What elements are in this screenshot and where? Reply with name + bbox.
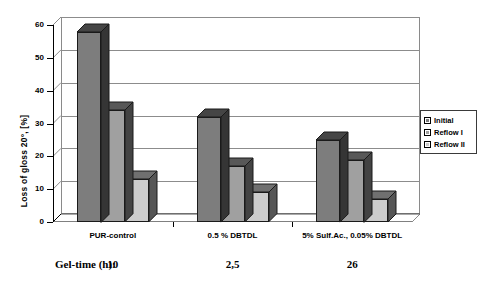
gel-time-value: 26 — [312, 258, 392, 270]
bar — [316, 140, 340, 222]
bars-layer — [53, 17, 420, 222]
gel-time-value: 2,5 — [193, 258, 273, 270]
bar-3d-faces — [197, 109, 229, 222]
legend-label: Reflow II — [434, 140, 465, 149]
y-axis-title: Loss of gloss 20°, [%] — [19, 101, 29, 221]
chart-legend: InitialReflow IReflow II — [420, 110, 477, 154]
y-axis-tick — [47, 58, 53, 59]
gel-time-value: 10 — [73, 258, 153, 270]
legend-swatch-icon — [424, 141, 431, 148]
legend-item[interactable]: Initial — [424, 114, 474, 126]
y-axis-tick — [47, 91, 53, 92]
y-axis-tick — [47, 156, 53, 157]
y-axis-tick — [47, 189, 53, 190]
legend-swatch-icon — [424, 117, 431, 124]
bar — [77, 32, 101, 222]
bar — [197, 117, 221, 222]
legend-label: Reflow I — [434, 128, 463, 137]
y-axis-title-wrap: Loss of gloss 20°, [%] — [8, 60, 24, 200]
y-axis-tick — [47, 124, 53, 125]
category-tick — [292, 222, 293, 227]
bar-3d-faces — [316, 132, 348, 222]
legend-item[interactable]: Reflow I — [424, 126, 474, 138]
y-axis-line — [53, 25, 54, 222]
chart-screenshot: 0102030405060 Loss of gloss 20°, [%] PUR… — [0, 0, 479, 284]
y-axis-tick — [47, 25, 53, 26]
y-axis-tick-label: 60 — [20, 21, 44, 29]
bar-3d-faces — [77, 24, 109, 222]
y-axis-tick — [47, 222, 53, 223]
legend-label: Initial — [434, 116, 454, 125]
legend-item[interactable]: Reflow II — [424, 138, 474, 150]
category-label: 5% Sulf.Ac., 0.05% DBTDL — [282, 231, 422, 240]
legend-swatch-icon — [424, 129, 431, 136]
plot-area — [53, 17, 420, 222]
category-tick — [173, 222, 174, 227]
